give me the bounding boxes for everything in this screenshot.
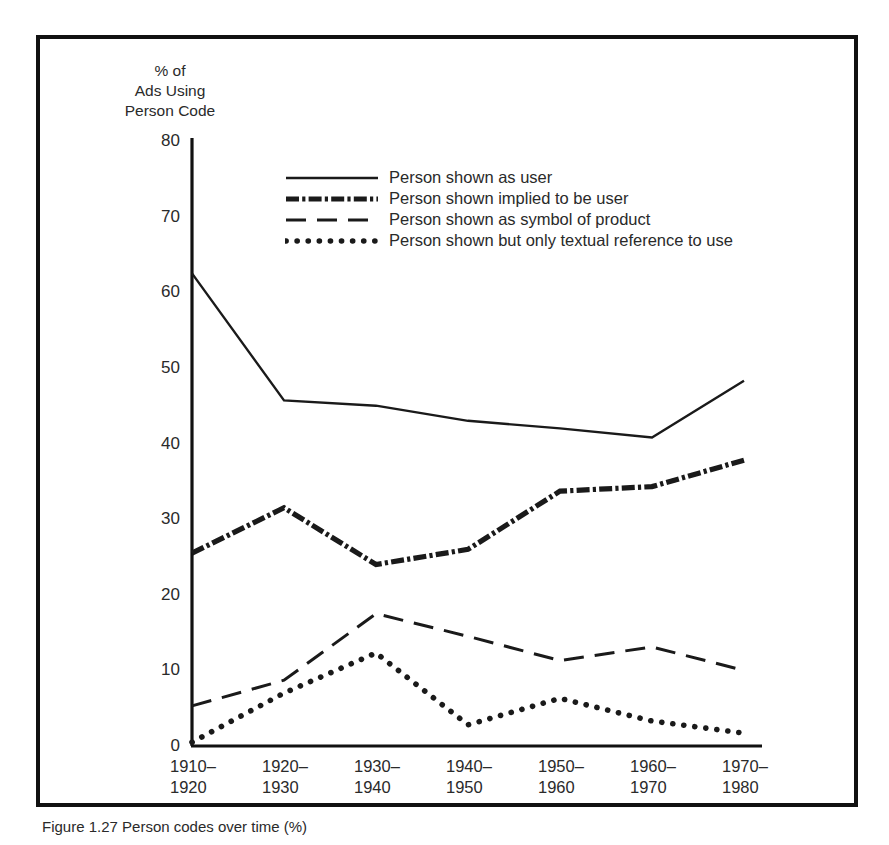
y-tick-label: 10 (40, 660, 180, 680)
y-tick-label: 60 (40, 282, 180, 302)
y-tick-label: 30 (40, 509, 180, 529)
legend-item[interactable]: Person shown implied to be user (285, 188, 733, 209)
y-tick-label: 20 (40, 585, 180, 605)
figure-caption: Figure 1.27 Person codes over time (%) (42, 818, 862, 844)
chart-series-line (192, 460, 744, 564)
y-tick-label: 50 (40, 358, 180, 378)
legend-item[interactable]: Person shown but only textual reference … (285, 230, 733, 251)
x-tick-label: 1940– 1950 (446, 756, 492, 798)
chart-series-line (192, 653, 744, 742)
chart-plot-area (40, 39, 854, 803)
x-tick-label: 1970– 1980 (722, 756, 768, 798)
chart-series-line (192, 273, 744, 437)
y-tick-label: 0 (40, 736, 180, 756)
x-tick-label: 1920– 1930 (262, 756, 308, 798)
legend-swatch-dashed-icon (285, 213, 379, 227)
x-tick-label: 1910– 1920 (170, 756, 216, 798)
x-tick-label: 1930– 1940 (354, 756, 400, 798)
chart-legend: Person shown as userPerson shown implied… (285, 167, 733, 251)
figure-frame: % of Ads Using Person Code Person shown … (36, 35, 858, 807)
legend-swatch-dotted-icon (285, 234, 379, 248)
y-tick-label: 40 (40, 434, 180, 454)
legend-item[interactable]: Person shown as user (285, 167, 733, 188)
chart-series-line (192, 614, 744, 706)
legend-swatch-dash-dot-icon (285, 192, 379, 206)
legend-label: Person shown as symbol of product (389, 210, 650, 229)
legend-label: Person shown implied to be user (389, 189, 628, 208)
legend-item[interactable]: Person shown as symbol of product (285, 209, 733, 230)
legend-label: Person shown as user (389, 168, 552, 187)
y-tick-label: 70 (40, 207, 180, 227)
x-tick-label: 1960– 1970 (630, 756, 676, 798)
legend-label: Person shown but only textual reference … (389, 231, 733, 250)
y-tick-label: 80 (40, 131, 180, 151)
legend-swatch-solid-icon (285, 171, 379, 185)
x-tick-label: 1950– 1960 (538, 756, 584, 798)
